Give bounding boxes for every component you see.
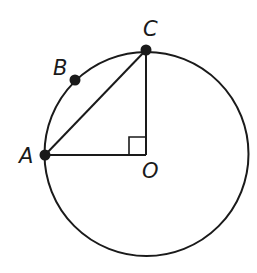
label-b: B — [53, 56, 67, 80]
point-c-dot — [141, 45, 152, 56]
label-c: C — [143, 17, 158, 41]
point-a-dot — [40, 150, 51, 161]
right-angle-marker — [129, 137, 146, 155]
label-a: A — [17, 144, 33, 168]
label-o: O — [142, 159, 159, 183]
geometry-diagram: A B C O — [0, 0, 257, 273]
point-b-dot — [70, 75, 81, 86]
